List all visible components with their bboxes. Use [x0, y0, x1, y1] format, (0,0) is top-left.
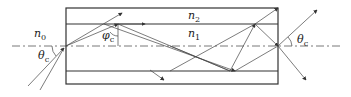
reflected-ray-4: [255, 24, 278, 46]
label-theta-out: θc: [297, 34, 308, 48]
label-theta-in: θc: [38, 50, 49, 64]
label-n2: n2: [188, 10, 200, 24]
ray-cross-a: [170, 46, 230, 71]
exit-ray-down: [278, 46, 306, 80]
theta-in-arc: [52, 46, 56, 56]
theta-out-arc: [288, 37, 292, 46]
fiber-diagram: [0, 0, 351, 97]
ray-top-right: [255, 8, 278, 24]
reflected-ray-1: [104, 24, 235, 71]
label-phi: φc: [102, 30, 114, 44]
label-n0: n0: [34, 28, 46, 42]
label-n1: n1: [188, 28, 200, 42]
